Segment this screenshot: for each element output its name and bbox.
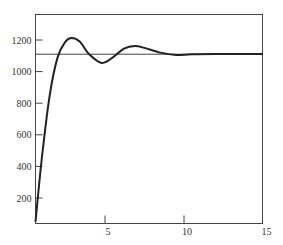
chart: 20040060080010001200 51015 xyxy=(0,0,283,245)
response-curve xyxy=(36,38,264,222)
y-tick-label: 200 xyxy=(17,193,32,204)
y-tick-label: 1000 xyxy=(12,66,32,77)
y-tick-label: 600 xyxy=(17,129,32,140)
x-tick-label: 10 xyxy=(182,226,192,237)
y-tick-label: 1200 xyxy=(12,35,32,46)
y-tick-label: 800 xyxy=(17,98,32,109)
y-tick-label: 400 xyxy=(17,161,32,172)
plot-frame xyxy=(36,15,263,224)
x-tick-label: 15 xyxy=(262,226,272,237)
x-tick-label: 5 xyxy=(106,226,111,237)
